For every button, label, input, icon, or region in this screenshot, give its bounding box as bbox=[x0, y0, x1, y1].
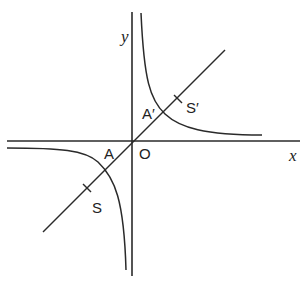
point-a-prime-label: A′ bbox=[142, 106, 155, 121]
hyperbola-diagram: y x O A A′ S S′ bbox=[0, 0, 306, 290]
point-s-prime-label: S′ bbox=[186, 100, 199, 115]
y-axis-label: y bbox=[121, 28, 129, 45]
x-axis-label: x bbox=[289, 147, 297, 164]
origin-label: O bbox=[139, 146, 151, 161]
point-s-label: S bbox=[92, 200, 102, 215]
point-a-label: A bbox=[104, 146, 114, 161]
diagram-graphics bbox=[0, 0, 306, 290]
